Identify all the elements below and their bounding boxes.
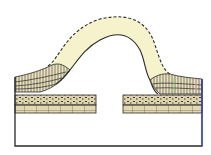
dotted-layer-left	[15, 95, 96, 105]
anticline-diagram	[0, 0, 211, 155]
blocky-layer-left	[15, 105, 96, 113]
dotted-layer-right	[123, 95, 202, 105]
upturned-strata-right	[150, 74, 202, 94]
blocky-layer-right	[123, 105, 202, 113]
